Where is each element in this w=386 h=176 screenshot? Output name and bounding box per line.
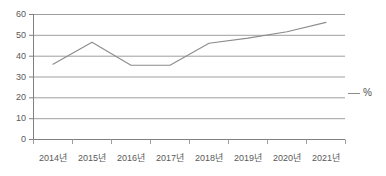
line-chart: 60 50 40 30 20 10 0 2014년 2015년 2016년 20… — [0, 0, 386, 176]
ytick-label-60: 60 — [4, 10, 26, 19]
ytick-label-20: 20 — [4, 93, 26, 102]
chart-canvas — [0, 0, 386, 176]
ytick-label-0: 0 — [4, 135, 26, 144]
xtick-label-2014: 2014년 — [34, 153, 72, 163]
gridlines — [33, 15, 345, 119]
xtick-label-2021: 2021년 — [307, 153, 345, 163]
xtick-label-2015: 2015년 — [73, 153, 111, 163]
xtick-label-2016: 2016년 — [112, 153, 150, 163]
xtick-label-2018: 2018년 — [190, 153, 228, 163]
x-axis-ticks — [34, 140, 346, 145]
legend: % — [348, 88, 372, 98]
ytick-label-30: 30 — [4, 73, 26, 82]
legend-line-icon — [348, 93, 360, 94]
ytick-label-10: 10 — [4, 114, 26, 123]
legend-label-percent: % — [363, 88, 372, 98]
xtick-label-2020: 2020년 — [268, 153, 306, 163]
ytick-label-50: 50 — [4, 31, 26, 40]
xtick-label-2019: 2019년 — [229, 153, 267, 163]
xtick-label-2017: 2017년 — [151, 153, 189, 163]
ytick-label-40: 40 — [4, 52, 26, 61]
data-series-percent — [53, 22, 326, 65]
y-axis-ticks — [29, 15, 33, 140]
